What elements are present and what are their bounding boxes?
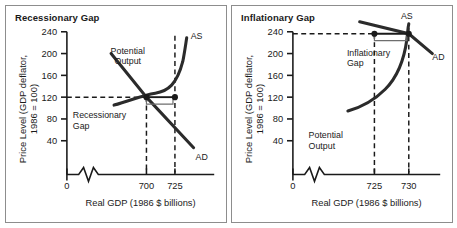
potential-output-label-line2: Output xyxy=(115,56,142,66)
y-tick-label-80: 80 xyxy=(273,114,283,124)
x-axis-title: Real GDP (1986 $ billions) xyxy=(311,198,421,208)
x-tick-label-700: 700 xyxy=(139,181,155,191)
y-axis-title-line1: Price Level (GDP deflator, xyxy=(244,55,254,164)
y-tick-label-80: 80 xyxy=(47,114,57,124)
y-tick-label-120: 120 xyxy=(42,93,58,103)
x-origin-label: 0 xyxy=(290,181,295,191)
y-axis-ticks xyxy=(287,32,293,141)
inflationary-gap-plot: 240 200 160 120 80 40 0 725 730 Real GDP… xyxy=(232,6,452,222)
y-tick-label-120: 120 xyxy=(268,93,284,103)
as-curve-label: AS xyxy=(191,31,203,41)
panel-inflationary-gap: Inflationary Gap 240 200 160 120 80 40 xyxy=(231,5,453,223)
y-tick-label-200: 200 xyxy=(268,49,284,59)
potential-output-point-marker xyxy=(172,94,178,100)
y-tick-label-40: 40 xyxy=(47,136,57,146)
x-axis-line-with-break xyxy=(67,168,214,182)
y-tick-label-240: 240 xyxy=(268,27,284,37)
gap-label-line1: Inflationary xyxy=(347,48,391,58)
y-tick-label-240: 240 xyxy=(42,27,58,37)
y-tick-label-40: 40 xyxy=(273,136,283,146)
gap-bracket xyxy=(374,34,406,41)
x-tick-label-725: 725 xyxy=(167,181,183,191)
potential-output-label-line1: Potential xyxy=(309,130,343,140)
equilibrium-point-marker xyxy=(406,31,412,37)
equilibrium-point-marker xyxy=(143,94,149,100)
gap-label-line1: Recessionary xyxy=(73,110,127,120)
x-tick-label-730: 730 xyxy=(401,181,417,191)
x-tick-label-725: 725 xyxy=(367,181,383,191)
x-axis-line-with-break xyxy=(293,168,440,182)
potential-output-label-line1: Potential xyxy=(111,46,145,56)
y-tick-label-160: 160 xyxy=(42,71,58,81)
ad-curve-label: AD xyxy=(196,152,208,162)
x-axis-title: Real GDP (1986 $ billions) xyxy=(85,198,195,208)
potential-output-point-marker xyxy=(371,31,377,37)
figure-container: Recessionary Gap 240 200 160 120 80 40 xyxy=(0,0,457,228)
y-tick-label-160: 160 xyxy=(268,71,284,81)
panel-recessionary-gap: Recessionary Gap 240 200 160 120 80 40 xyxy=(5,5,227,223)
ad-curve-label: AD xyxy=(432,52,444,62)
gap-label-line2: Gap xyxy=(73,121,90,131)
as-curve-label: AS xyxy=(401,11,413,21)
y-axis-title-line2: 1986 = 100) xyxy=(29,84,39,134)
y-axis-title-line2: 1986 = 100) xyxy=(255,84,265,134)
recessionary-gap-plot: 240 200 160 120 80 40 0 700 725 Real GDP… xyxy=(6,6,226,222)
y-axis-title-line1: Price Level (GDP deflator, xyxy=(18,55,28,164)
x-origin-label: 0 xyxy=(64,181,69,191)
y-axis-ticks xyxy=(61,32,67,141)
gap-label-line2: Gap xyxy=(347,58,364,68)
y-tick-label-200: 200 xyxy=(42,49,58,59)
potential-output-label-line2: Output xyxy=(309,141,336,151)
